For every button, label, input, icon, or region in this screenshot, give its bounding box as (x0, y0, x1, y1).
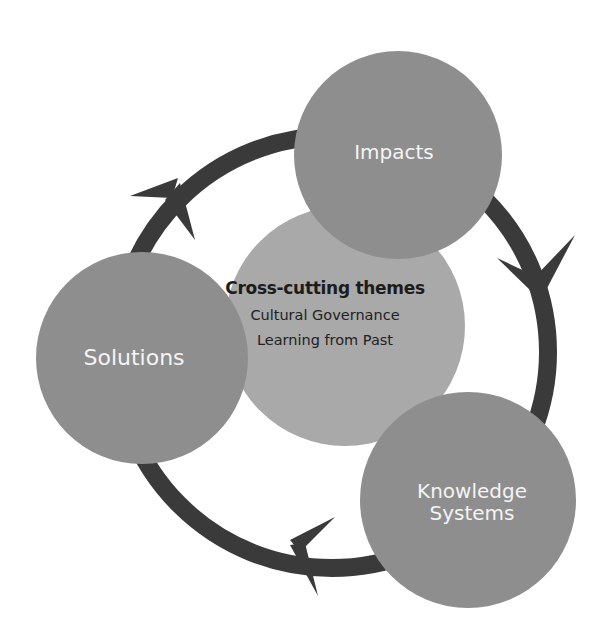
knowledge-systems-label-line2: Systems (417, 502, 527, 524)
center-title: Cross-cutting themes (225, 278, 424, 298)
arrowhead-icon (290, 517, 335, 596)
center-item-learning-from-past: Learning from Past (225, 332, 424, 348)
solutions-label: Solutions (83, 346, 184, 371)
impacts-label: Impacts (354, 141, 434, 163)
cross-cutting-themes: Cross-cutting themes Cultural Governance… (225, 278, 424, 357)
center-item-cultural-governance: Cultural Governance (225, 307, 424, 323)
knowledge-systems-label: Knowledge Systems (417, 480, 527, 525)
knowledge-systems-label-line1: Knowledge (417, 480, 527, 502)
